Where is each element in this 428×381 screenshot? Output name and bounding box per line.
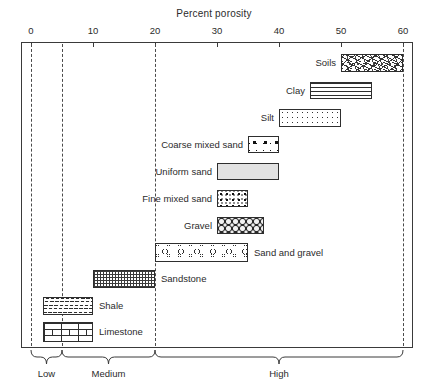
brace-label-low: Low: [38, 368, 55, 379]
bar-soils: [341, 54, 403, 72]
brace-paths: [0, 348, 428, 370]
bar-sandstone: [93, 270, 155, 288]
bar-label-uniform-sand: Uniform sand: [156, 167, 213, 177]
gridline-dashed: [403, 44, 404, 346]
axis-tick-label: 10: [88, 25, 99, 36]
bar-fine-mixed-sand: [217, 190, 248, 207]
axis-tick-label: 50: [336, 25, 347, 36]
gridline-dashed: [31, 44, 32, 346]
brace-label-medium: Medium: [92, 368, 126, 379]
axis-tick-label: 20: [150, 25, 161, 36]
bar-label-sandstone: Sandstone: [161, 274, 206, 284]
bar-label-silt: Silt: [261, 113, 274, 123]
bar-limestone: [43, 322, 93, 342]
brace-low: [31, 350, 62, 364]
bar-label-limestone: Limestone: [99, 327, 143, 337]
bar-label-shale: Shale: [99, 301, 123, 311]
bar-gravel: [217, 217, 264, 234]
axis-tick-label: 60: [398, 25, 409, 36]
bar-silt: [279, 109, 341, 127]
bar-clay: [310, 82, 372, 99]
bar-label-clay: Clay: [286, 86, 305, 96]
bar-sand-and-gravel: [155, 243, 248, 262]
porosity-class-braces: LowMediumHigh: [0, 348, 428, 381]
porosity-chart: Percent porosity 0102030405060 SoilsClay…: [0, 0, 428, 381]
bar-label-coarse-mixed-sand: Coarse mixed sand: [161, 140, 243, 150]
brace-medium: [62, 350, 155, 364]
bar-uniform-sand: [217, 163, 279, 180]
bar-label-sand-and-gravel: Sand and gravel: [254, 248, 323, 258]
bar-label-gravel: Gravel: [184, 221, 212, 231]
axis-tick-label: 30: [212, 25, 223, 36]
axis-tick-label: 0: [28, 25, 33, 36]
bar-label-soils: Soils: [315, 58, 336, 68]
bar-shale: [43, 297, 93, 315]
chart-title: Percent porosity: [0, 8, 428, 19]
axis-tick-label: 40: [274, 25, 285, 36]
brace-high: [155, 350, 403, 364]
brace-label-high: High: [269, 368, 289, 379]
bar-coarse-mixed-sand: [248, 136, 279, 153]
bar-label-fine-mixed-sand: Fine mixed sand: [142, 194, 212, 204]
